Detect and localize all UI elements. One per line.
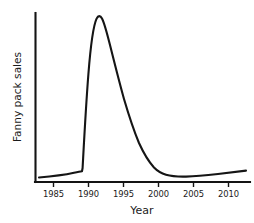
x-tick-label: 1990: [78, 189, 99, 199]
x-tick-label: 1985: [43, 189, 64, 199]
x-tick-label: 2000: [148, 189, 169, 199]
x-axis-title: Year: [129, 204, 154, 217]
chart-figure: 1985 1990 1995 2000 2005 2010 Year Fanny…: [0, 0, 254, 223]
x-tick-labels: 1985 1990 1995 2000 2005 2010: [43, 189, 239, 199]
y-axis-title: Fanny pack sales: [11, 52, 23, 142]
x-tick-label: 2010: [218, 189, 239, 199]
line-chart: 1985 1990 1995 2000 2005 2010 Year Fanny…: [0, 0, 254, 223]
x-tick-label: 2005: [183, 189, 204, 199]
x-tick-label: 1995: [113, 189, 134, 199]
fanny-pack-sales-line: [39, 16, 246, 177]
